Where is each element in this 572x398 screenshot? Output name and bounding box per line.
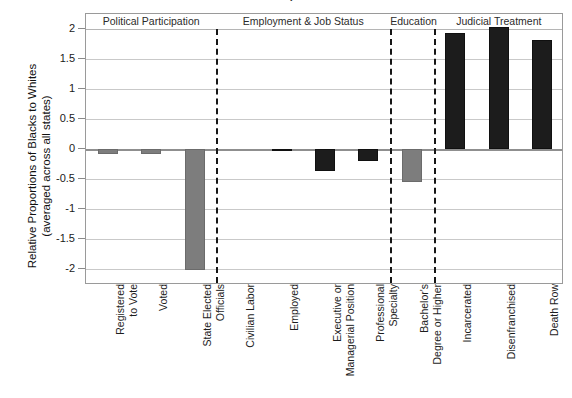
x-tick-label-line1: Bachelor's: [418, 284, 430, 333]
x-axis-category-labels: Registeredto VoteVotedState ElectedOffic…: [85, 284, 563, 398]
x-tick-label: State ElectedOfficials: [201, 284, 215, 390]
x-tick-label-line2: Officials: [214, 284, 227, 390]
bar: [402, 149, 422, 182]
chart-title: Relative Proportions: [150, 0, 410, 1]
gridline: [86, 179, 562, 180]
group-separator: [390, 29, 392, 283]
x-tick-label: Executive orManagerial Position: [331, 284, 345, 390]
y-axis-tick-labels: 21.510.50-0.5-1-1.5-2: [0, 13, 85, 284]
x-tick-label-line1: Incarcerated: [461, 284, 473, 342]
y-tick-mark: [78, 28, 85, 29]
gridline: [86, 239, 562, 240]
x-tick-label-line1: Professional: [374, 284, 386, 342]
y-tick-mark: [78, 118, 85, 119]
x-tick-label-line1: Voted: [157, 284, 169, 311]
bar: [141, 149, 161, 154]
x-tick-label-line1: Death Row: [548, 284, 560, 336]
y-tick-label: -1.5: [56, 232, 75, 244]
y-tick-label: 1: [69, 82, 75, 94]
group-label: Education: [390, 14, 433, 29]
x-tick-label-line2: Managerial Position: [344, 284, 357, 390]
y-tick-label: -2: [65, 262, 75, 274]
y-tick-label: 0.5: [60, 112, 75, 124]
x-tick-label-line2: Degree or Higher: [431, 284, 444, 390]
x-tick-label: Incarcerated: [461, 284, 475, 390]
plot-frame: Political ParticipationEmployment & Job …: [85, 13, 563, 284]
bar: [98, 149, 118, 154]
x-tick-label-line2: to Vote: [127, 284, 140, 390]
x-tick-label: Disenfranchised: [505, 284, 519, 390]
y-tick-mark: [78, 148, 85, 149]
x-tick-label: Bachelor'sDegree or Higher: [418, 284, 432, 390]
x-tick-label: Employed: [288, 284, 302, 390]
y-tick-label: -0.5: [56, 172, 75, 184]
y-tick-mark: [78, 268, 85, 269]
x-tick-label-line1: Registered: [114, 284, 126, 335]
group-label: Political Participation: [86, 14, 216, 29]
bar: [185, 149, 205, 270]
y-tick-mark: [78, 208, 85, 209]
x-tick-label-line2: Specialty: [387, 284, 400, 390]
bar: [272, 149, 292, 151]
group-separator: [216, 29, 218, 283]
y-tick-label: -1: [65, 202, 75, 214]
x-tick-label-line1: Executive or: [331, 284, 343, 342]
x-tick-label: Registeredto Vote: [114, 284, 128, 390]
bar: [315, 149, 335, 171]
y-tick-label: 2: [69, 22, 75, 34]
y-tick-label: 0: [69, 142, 75, 154]
y-tick-mark: [78, 88, 85, 89]
gridline: [86, 269, 562, 270]
x-tick-label: Death Row: [548, 284, 562, 390]
x-tick-label-line1: Employed: [288, 284, 300, 331]
x-tick-label: ProfessionalSpecialty: [374, 284, 388, 390]
bar: [358, 149, 378, 161]
y-tick-mark: [78, 58, 85, 59]
group-label: Employment & Job Status: [216, 14, 390, 29]
x-tick-label: Civilian Labor: [244, 284, 258, 390]
plot-area: [86, 29, 562, 283]
bar: [445, 33, 465, 149]
y-tick-mark: [78, 178, 85, 179]
y-tick-label: 1.5: [60, 52, 75, 64]
bar: [532, 40, 552, 149]
group-separator: [434, 29, 436, 283]
x-tick-label-line1: State Elected: [201, 284, 213, 346]
y-tick-mark: [78, 238, 85, 239]
gridline: [86, 209, 562, 210]
x-tick-label-line1: Civilian Labor: [244, 284, 256, 348]
x-tick-label: Voted: [157, 284, 171, 390]
x-tick-label-line1: Disenfranchised: [505, 284, 517, 359]
bar: [489, 27, 509, 149]
